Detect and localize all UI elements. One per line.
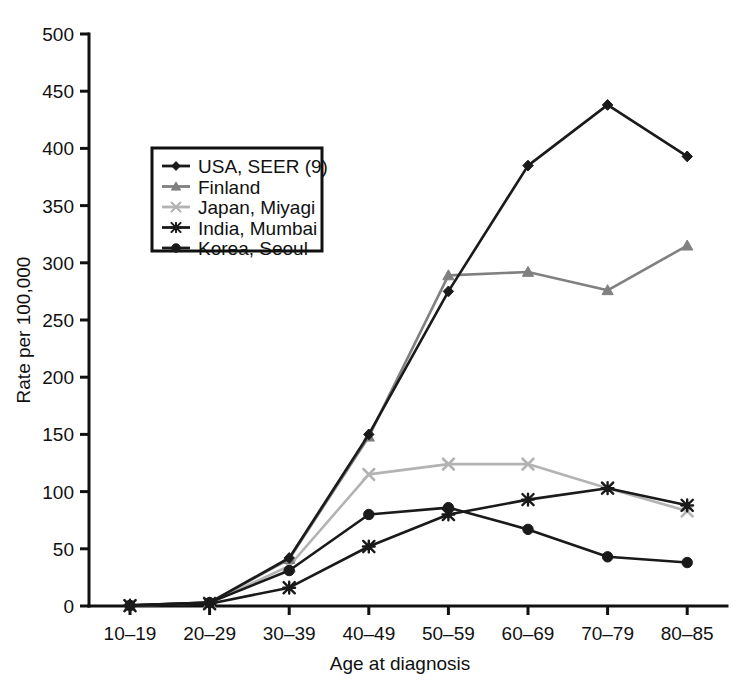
data-point-star-marker [522, 494, 534, 506]
y-tick-label: 250 [42, 310, 74, 331]
data-point-triangle-marker [682, 240, 693, 250]
data-point-circle-marker [172, 244, 181, 253]
x-tick-label: 30–39 [263, 623, 316, 644]
y-axis-tick-labels: 050100150200250300350400450500 [42, 24, 74, 617]
data-point-star-marker [681, 499, 693, 511]
data-point-circle-marker [284, 565, 294, 575]
y-tick-label: 0 [63, 596, 74, 617]
x-tick-label: 80–85 [661, 623, 714, 644]
y-tick-label: 200 [42, 367, 74, 388]
legend-item-label: Japan, Miyagi [198, 197, 315, 218]
y-tick-label: 500 [42, 24, 74, 45]
x-axis-tick-labels: 10–1920–2930–3940–4950–5960–6970–7980–85 [104, 623, 714, 644]
series-korea-seoul [125, 502, 693, 610]
data-point-circle-marker [523, 524, 533, 534]
y-tick-label: 50 [53, 539, 74, 560]
legend-item-label: India, Mumbai [198, 218, 317, 239]
series-line [130, 246, 687, 606]
series-india-mumbai [124, 482, 693, 611]
data-point-star-marker [363, 541, 375, 553]
y-tick-label: 400 [42, 138, 74, 159]
legend-item-label: Korea, Seoul [198, 238, 308, 259]
y-tick-label: 300 [42, 253, 74, 274]
data-point-circle-marker [602, 552, 612, 562]
x-tick-label: 60–69 [502, 623, 555, 644]
y-tick-label: 450 [42, 81, 74, 102]
y-tick-label: 350 [42, 196, 74, 217]
series-line [130, 488, 687, 606]
y-axis-label: Rate per 100,000 [13, 257, 34, 404]
y-tick-label: 100 [42, 482, 74, 503]
y-tick-label: 150 [42, 424, 74, 445]
x-tick-label: 10–19 [104, 623, 157, 644]
legend-item-label: Finland [198, 177, 260, 198]
data-point-circle-marker [443, 502, 453, 512]
line-chart: 050100150200250300350400450500 10–1920–2… [0, 0, 741, 682]
chart-canvas: 050100150200250300350400450500 10–1920–2… [0, 0, 741, 682]
data-point-star-marker [602, 482, 614, 494]
x-tick-label: 20–29 [183, 623, 236, 644]
data-point-circle-marker [364, 509, 374, 519]
x-tick-label: 50–59 [422, 623, 475, 644]
legend: USA, SEER (9)FinlandJapan, MiyagiIndia, … [152, 148, 328, 259]
x-axis-label: Age at diagnosis [330, 653, 471, 674]
x-tick-label: 70–79 [581, 623, 634, 644]
data-point-circle-marker [682, 557, 692, 567]
data-point-star-marker [283, 582, 295, 594]
legend-item-label: USA, SEER (9) [198, 156, 328, 177]
data-point-star-marker [171, 223, 181, 233]
x-tick-label: 40–49 [342, 623, 395, 644]
